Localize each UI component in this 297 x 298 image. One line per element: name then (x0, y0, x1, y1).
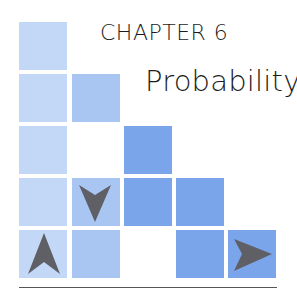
grid-square-r3-c1 (19, 126, 67, 174)
grid-square-r2-c2 (72, 74, 120, 122)
chapter-title: Probability (145, 64, 297, 98)
grid-square-r5-c1 (19, 230, 67, 278)
grid-square-r4-c3 (124, 178, 172, 226)
grid-square-r5-c2 (72, 230, 120, 278)
grid-square-r4-c4 (176, 178, 224, 226)
arrow-up-icon (19, 230, 67, 278)
arrow-down-icon (72, 178, 120, 226)
grid-square-r4-c1 (19, 178, 67, 226)
grid-square-r2-c1 (19, 74, 67, 122)
grid-square-r5-c5 (228, 230, 276, 278)
chapter-label: CHAPTER 6 (100, 20, 228, 45)
arrow-right-icon (228, 230, 276, 278)
horizontal-rule (19, 287, 277, 288)
grid-square-r1-c1 (19, 22, 67, 70)
grid-square-r4-c2 (72, 178, 120, 226)
grid-square-r5-c4 (176, 230, 224, 278)
grid-square-r3-c3 (124, 126, 172, 174)
